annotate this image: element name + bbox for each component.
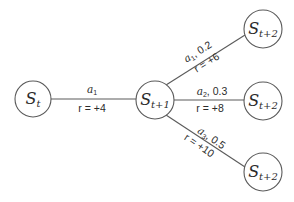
- node-st: St: [15, 81, 51, 117]
- node-st2-middle: St+2: [244, 82, 282, 120]
- edge-label-reward-1: r = +4: [78, 102, 106, 114]
- edge-label-reward-3: r = +8: [196, 102, 224, 114]
- node-st2-bottom: St+2: [244, 153, 282, 191]
- edge-label-action-3: a2, 0.3: [197, 85, 228, 98]
- node-st1: St+1: [136, 81, 174, 119]
- node-st2-top: St+2: [244, 10, 282, 48]
- edge-label-action-1: a1: [87, 83, 97, 96]
- diagram-canvas: a1 r = +4 a1, 0.2 r = +6 a2, 0.3 r = +8 …: [0, 0, 294, 202]
